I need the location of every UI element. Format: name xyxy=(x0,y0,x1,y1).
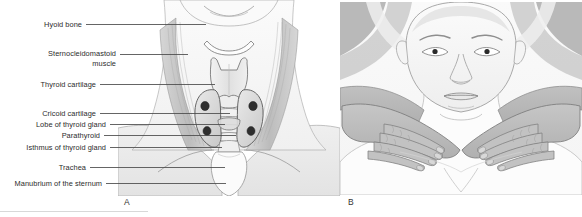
leader-line-lobe-of-thyroid-gland xyxy=(110,124,225,125)
label-thyroid-cartilage-text: Thyroid cartilage xyxy=(41,80,96,89)
label-manubrium-of-the-sternum: Manubrium of the sternum xyxy=(0,179,102,189)
label-hyoid-bone: Hyoid bone xyxy=(0,20,82,30)
panel-letter-a: A xyxy=(124,197,130,207)
label-sternocleidomastoid-muscle: Sternocleidomastoid muscle xyxy=(8,49,116,68)
label-hyoid-bone-text: Hyoid bone xyxy=(44,20,82,29)
parathyroid-gland-lower-right xyxy=(247,127,255,136)
figure-thyroid-anatomy: Hyoid bone Sternocleidomastoid muscle Th… xyxy=(0,0,582,217)
parathyroid-gland-upper-right xyxy=(249,101,257,110)
label-sternocleidomastoid-line2: muscle xyxy=(92,59,116,68)
label-lobe-of-thyroid-gland-text: Lobe of thyroid gland xyxy=(36,120,106,129)
leader-line-sternocleidomastoid xyxy=(120,54,188,55)
bottom-divider xyxy=(0,211,148,212)
label-parathyroid: Parathyroid xyxy=(0,131,100,141)
leader-line-isthmus-of-thyroid-gland xyxy=(110,147,222,148)
label-isthmus-of-thyroid-gland: Isthmus of thyroid gland xyxy=(0,143,106,153)
panel-letter-b: B xyxy=(348,197,354,207)
panel-letter-b-text: B xyxy=(348,197,354,207)
label-manubrium-text: Manubrium of the sternum xyxy=(15,179,102,188)
panel-b-illustration xyxy=(340,2,582,195)
parathyroid-gland-upper-left xyxy=(201,101,209,110)
label-cricoid-cartilage: Cricoid cartilage xyxy=(0,109,96,119)
panel-letter-a-text: A xyxy=(124,197,130,207)
leader-line-manubrium xyxy=(106,183,226,184)
label-trachea: Trachea xyxy=(0,163,86,173)
label-lobe-of-thyroid-gland: Lobe of thyroid gland xyxy=(0,120,106,130)
label-thyroid-cartilage: Thyroid cartilage xyxy=(0,80,96,90)
leader-line-trachea xyxy=(90,167,225,168)
label-parathyroid-text: Parathyroid xyxy=(62,131,100,140)
leader-line-cricoid-cartilage xyxy=(100,113,230,114)
leader-line-parathyroid xyxy=(104,135,236,136)
label-isthmus-of-thyroid-gland-text: Isthmus of thyroid gland xyxy=(26,143,106,152)
label-sternocleidomastoid-line1: Sternocleidomastoid xyxy=(48,49,116,58)
leader-line-hyoid-bone xyxy=(86,24,206,25)
label-cricoid-cartilage-text: Cricoid cartilage xyxy=(42,109,96,118)
label-trachea-text: Trachea xyxy=(59,163,86,172)
leader-line-thyroid-cartilage xyxy=(100,84,215,85)
